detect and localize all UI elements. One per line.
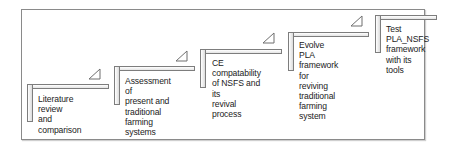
step-2-label: Assessment of present and traditional fa… [125, 76, 171, 137]
step-5-top-bar [375, 15, 437, 20]
step-5-label: Test PLA_NSFS framework with its tools [386, 24, 429, 75]
triangle-arrow-icon [88, 68, 101, 80]
triangle-arrow-icon [350, 15, 363, 27]
triangle-arrow-icon [175, 50, 188, 62]
step-3-label: CE compatability of NSFS and its revival… [212, 58, 261, 119]
step-4-left-bar [288, 32, 294, 71]
step-4-label: Evolve PLA framework for reviving tradit… [299, 40, 338, 122]
step-1-left-bar [27, 84, 33, 122]
step-3-top-bar [200, 49, 282, 54]
step-2-top-bar [114, 66, 195, 71]
step-2-left-bar [114, 66, 120, 105]
step-4-top-bar [288, 32, 369, 37]
step-5-left-bar [375, 15, 381, 53]
triangle-arrow-icon [262, 32, 275, 44]
step-1-label: Literature review and comparison [38, 94, 81, 135]
step-3-left-bar [200, 49, 206, 88]
step-1-top-bar [27, 84, 109, 89]
